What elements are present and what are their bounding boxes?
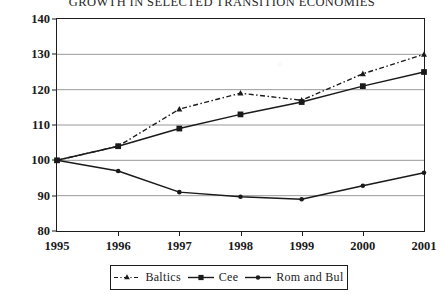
- legend-key-baltics-icon: [114, 272, 140, 283]
- data-point: [238, 90, 244, 96]
- series-line: [57, 160, 424, 199]
- data-series-layer: [57, 19, 424, 231]
- y-axis-label: 130: [31, 47, 50, 62]
- legend-key-cee-icon: [188, 272, 214, 283]
- series-baltics: [54, 51, 427, 163]
- data-point: [361, 183, 366, 188]
- series-cee: [54, 69, 427, 163]
- x-axis-label: 1996: [106, 239, 131, 254]
- chart-figure: GROWTH IN SELECTED TRANSITION ECONOMIES …: [0, 0, 444, 294]
- data-point: [177, 190, 182, 195]
- legend-entry-cee[interactable]: Cee: [187, 270, 240, 285]
- y-axis-label: 90: [38, 188, 51, 203]
- data-point: [238, 194, 243, 199]
- x-axis-label: 2000: [350, 239, 375, 254]
- plot-area: 8090100110120130140 19951996199719981999…: [56, 18, 425, 232]
- data-point: [421, 69, 427, 75]
- data-point: [421, 51, 427, 57]
- x-axis-label: 1999: [289, 239, 314, 254]
- data-point: [299, 99, 305, 105]
- x-axis-label: 1995: [45, 239, 70, 254]
- series-rom-and-bul: [55, 158, 427, 201]
- data-point: [176, 106, 182, 112]
- y-axis-label: 120: [31, 82, 50, 97]
- legend-label-cee: Cee: [219, 270, 239, 285]
- legend-label-baltics: Baltics: [145, 270, 180, 285]
- x-axis-tick: [302, 231, 303, 236]
- x-axis-label: 1998: [228, 239, 253, 254]
- data-point: [116, 169, 121, 174]
- x-axis-tick: [363, 231, 364, 236]
- data-point: [422, 170, 427, 175]
- series-line: [57, 54, 424, 160]
- data-point: [360, 83, 366, 89]
- y-axis-label: 80: [38, 224, 51, 239]
- x-axis-tick: [179, 231, 180, 236]
- x-axis-label: 2001: [412, 239, 437, 254]
- y-axis-label: 140: [31, 12, 50, 27]
- legend-key-rom-and-bul-icon: [245, 272, 271, 283]
- x-axis-label: 1997: [167, 239, 192, 254]
- data-point: [55, 158, 60, 163]
- legend-entry-rom-and-bul[interactable]: Rom and Bul: [244, 270, 344, 285]
- chart-legend: Baltics Cee Rom and Bul: [110, 265, 348, 290]
- y-axis-label: 100: [31, 153, 50, 168]
- legend-label-rom-and-bul: Rom and Bul: [276, 270, 343, 285]
- legend-entry-baltics[interactable]: Baltics: [113, 270, 181, 285]
- chart-title: GROWTH IN SELECTED TRANSITION ECONOMIES: [0, 0, 444, 11]
- x-axis-tick: [118, 231, 119, 236]
- data-point: [299, 197, 304, 202]
- data-point: [176, 126, 182, 132]
- y-axis-label: 110: [32, 118, 50, 133]
- data-point: [115, 143, 121, 149]
- data-point: [238, 112, 244, 118]
- x-axis-tick: [241, 231, 242, 236]
